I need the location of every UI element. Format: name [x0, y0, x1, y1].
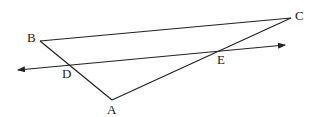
segment-ba: [40, 41, 112, 100]
label-c: C: [295, 8, 304, 23]
triangle-diagram: A B C D E: [0, 0, 315, 117]
label-e: E: [217, 52, 225, 67]
segment-bc: [40, 18, 291, 41]
label-b: B: [27, 30, 36, 45]
line-de-with-arrows: [18, 45, 285, 70]
label-d: D: [62, 66, 71, 81]
label-a: A: [107, 102, 117, 117]
